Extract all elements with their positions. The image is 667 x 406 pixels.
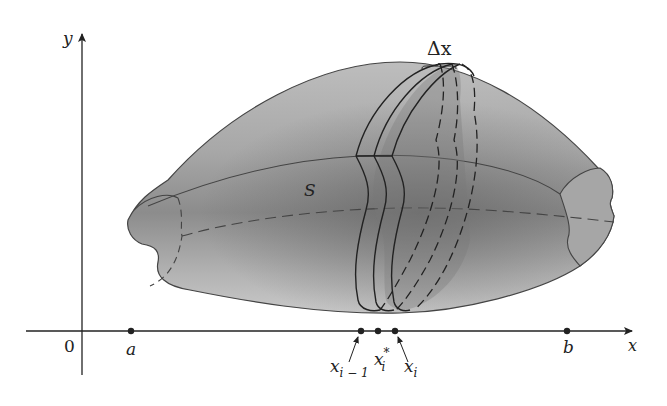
label-b: b (563, 337, 574, 357)
solid-shadow (128, 62, 614, 313)
point-x-star (375, 328, 381, 334)
solid-label: S (304, 180, 316, 200)
point-x-im1 (358, 328, 364, 334)
arrow-x-im1 (349, 337, 358, 362)
point-b (564, 328, 570, 334)
x-axis-label: x (628, 336, 637, 355)
solid-slicing-diagram: y x 0 S Δx (0, 0, 667, 406)
delta-x-label: Δx (427, 37, 452, 59)
point-x-i (392, 328, 398, 334)
origin-label: 0 (64, 336, 75, 356)
point-a (128, 328, 134, 334)
label-x-star: x*i (374, 346, 390, 374)
label-x-i: xi (404, 356, 418, 380)
y-axis-label: y (62, 28, 73, 48)
solid-s: S (128, 62, 614, 313)
label-a: a (126, 339, 136, 359)
x-axis-points: a b xi − 1 x*i xi (126, 328, 574, 380)
